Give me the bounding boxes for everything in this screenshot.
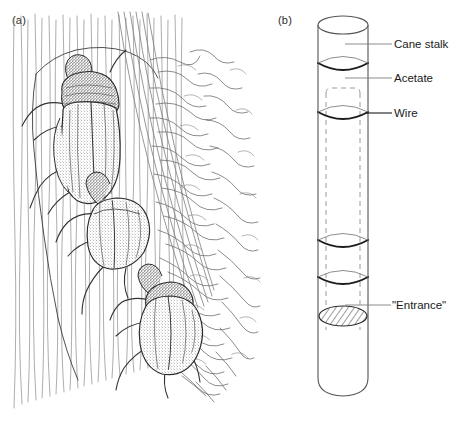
label-acetate: Acetate [394,72,433,84]
entrance-hole [319,306,367,326]
beetle-illustration [0,0,270,434]
beetle-upper [22,50,126,214]
figure-root: (a) [0,0,452,434]
label-cane-stalk: Cane stalk [394,38,448,50]
panel-b: (b) [270,0,452,434]
cane-stalk-diagram [270,0,452,434]
label-entrance: "Entrance" [392,299,446,311]
label-wire: Wire [394,107,418,119]
beetle-lower [110,264,203,398]
cylinder-top-ellipse [318,16,368,34]
panel-a: (a) [0,0,270,434]
beetle-middle-body [87,198,149,269]
